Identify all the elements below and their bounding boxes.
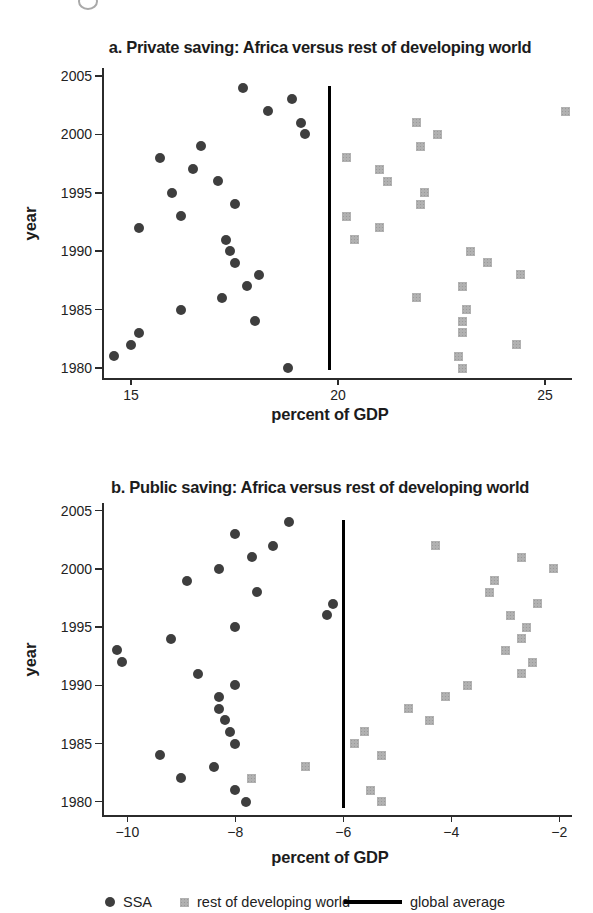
ssa-point (155, 750, 165, 760)
rest-point (247, 774, 256, 783)
x-tick-label: 15 (101, 387, 161, 403)
legend-item-global: global average (344, 894, 505, 910)
x-tick-label: 20 (308, 387, 368, 403)
ssa-point (126, 340, 136, 350)
rest-point (375, 165, 384, 174)
ssa-point (134, 223, 144, 233)
ssa-point (155, 153, 165, 163)
y-tick (95, 568, 102, 570)
y-tick-label: 2005 (40, 503, 92, 519)
y-tick (95, 309, 102, 311)
ssa-point (263, 106, 273, 116)
y-tick-label: 2000 (40, 126, 92, 142)
rest-point (490, 576, 499, 585)
x-tick (337, 378, 339, 385)
x-tick-label: −10 (97, 824, 157, 840)
x-tick (544, 378, 546, 385)
y-tick-label: 1990 (40, 243, 92, 259)
rest-point (412, 293, 421, 302)
ssa-point (176, 211, 186, 221)
ssa-point (214, 564, 224, 574)
ssa-point (167, 188, 177, 198)
y-tick (95, 134, 102, 136)
rest-point (517, 634, 526, 643)
x-tick (343, 815, 345, 822)
y-tick (95, 250, 102, 252)
ssa-point (193, 669, 203, 679)
chart-a-x-axis-label: percent of GDP (60, 405, 593, 424)
ssa-point (225, 727, 235, 737)
rest-point (485, 588, 494, 597)
ssa-marker-icon (105, 897, 115, 907)
rest-point (454, 352, 463, 361)
ssa-point (238, 83, 248, 93)
ssa-point (230, 258, 240, 268)
rest-point (533, 599, 542, 608)
legend-ssa-label: SSA (123, 894, 152, 910)
ssa-point (287, 94, 297, 104)
ssa-point (176, 305, 186, 315)
rest-point (350, 235, 359, 244)
rest-point (375, 223, 384, 232)
ssa-point (134, 328, 144, 338)
rest-point (441, 692, 450, 701)
rest-point (517, 553, 526, 562)
ssa-point (230, 785, 240, 795)
ssa-point (112, 645, 122, 655)
ssa-point (247, 552, 257, 562)
global-average-line (342, 520, 345, 808)
y-tick (95, 75, 102, 77)
y-tick-label: 1980 (40, 794, 92, 810)
rest-point (528, 658, 537, 667)
x-tick (127, 815, 129, 822)
y-tick (95, 510, 102, 512)
ssa-point (217, 293, 227, 303)
ssa-point (176, 773, 186, 783)
rest-point (549, 564, 558, 573)
ssa-point (166, 634, 176, 644)
rest-point (404, 704, 413, 713)
rest-point (462, 305, 471, 314)
chart-a-title: a. Private saving: Africa versus rest of… (60, 38, 580, 57)
x-tick-label: −4 (421, 824, 481, 840)
ssa-point (209, 762, 219, 772)
rest-point (522, 623, 531, 632)
rest-point (420, 188, 429, 197)
rest-point (483, 258, 492, 267)
rest-point (561, 107, 570, 116)
rest-point (416, 142, 425, 151)
rest-point (342, 153, 351, 162)
rest-point (466, 247, 475, 256)
ssa-point (322, 610, 332, 620)
legend-global-label: global average (410, 894, 505, 910)
rest-point (458, 364, 467, 373)
x-tick-label: −2 (529, 824, 589, 840)
rest-point (506, 611, 515, 620)
ssa-point (268, 541, 278, 551)
chart-b-y-axis-label: year (21, 630, 40, 690)
rest-point (377, 797, 386, 806)
ssa-point (188, 164, 198, 174)
x-tick (235, 815, 237, 822)
ssa-point (214, 704, 224, 714)
ssa-point (196, 141, 206, 151)
y-tick-label: 1995 (40, 619, 92, 635)
x-tick (130, 378, 132, 385)
x-tick-label: 25 (515, 387, 575, 403)
chart-b-title: b. Public saving: Africa versus rest of … (60, 478, 580, 497)
rest-marker-icon (180, 898, 189, 907)
y-tick (95, 626, 102, 628)
ssa-point (213, 176, 223, 186)
ssa-point (296, 118, 306, 128)
rest-point (412, 118, 421, 127)
y-tick (95, 801, 102, 803)
chart-a-y-axis-label: year (21, 194, 40, 254)
y-tick-label: 2000 (40, 561, 92, 577)
global-average-line (328, 86, 331, 370)
rest-point (383, 177, 392, 186)
y-tick-label: 1990 (40, 677, 92, 693)
x-tick (451, 815, 453, 822)
ssa-point (109, 351, 119, 361)
ssa-point (252, 587, 262, 597)
rest-point (416, 200, 425, 209)
